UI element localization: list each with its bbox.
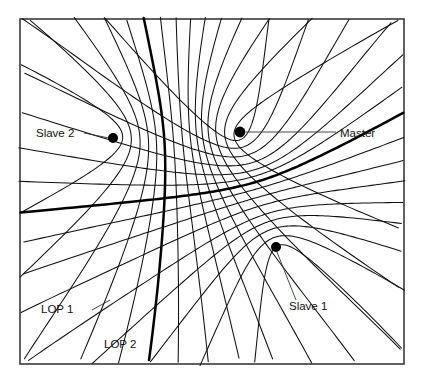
slave1-label: Slave 1 (289, 300, 327, 312)
slave2-label: Slave 2 (36, 127, 74, 139)
station-marker-master (235, 127, 246, 138)
station-marker-slave1 (271, 242, 281, 252)
lop2-label: LOP 2 (104, 338, 136, 350)
lop1-label: LOP 1 (41, 303, 73, 315)
station-marker-slave2 (108, 133, 118, 143)
master-label: Master (340, 127, 375, 139)
lop-diagram: Slave 2MasterSlave 1LOP 1LOP 2 (0, 0, 427, 385)
